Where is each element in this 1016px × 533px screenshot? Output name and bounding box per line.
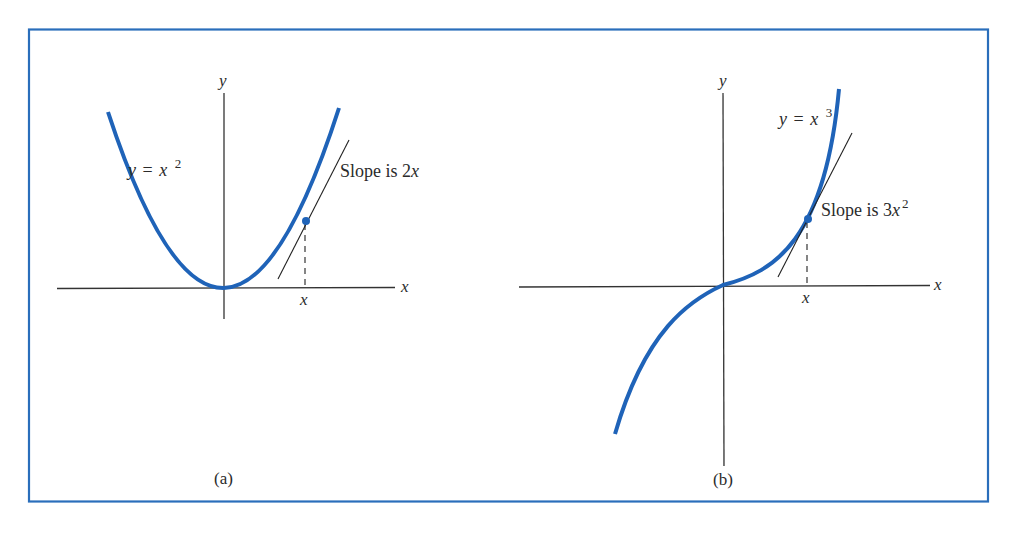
panel-a: y x x y = x 2 Slope is 2x (a)	[57, 71, 419, 488]
panel-b-y-axis	[723, 93, 724, 466]
panel-a-tangent-line	[278, 140, 349, 279]
figure-canvas: y x x y = x 2 Slope is 2x (a) y x x	[0, 0, 1016, 533]
panel-b-x-tick-label: x	[801, 288, 810, 307]
panel-b-y-axis-label: y	[717, 71, 727, 90]
panel-b-x-axis-label: x	[933, 275, 942, 294]
panel-b-cubic-curve	[615, 89, 839, 434]
panel-a-y-axis-label: y	[217, 71, 227, 90]
panel-a-caption-label: (a)	[214, 469, 233, 488]
panel-a-curve-label: y = x 2	[126, 156, 181, 180]
panel-b-tangent-point	[804, 215, 812, 223]
panel-a-x-axis-label: x	[400, 277, 409, 296]
panel-a-tangent-label: Slope is 2x	[340, 161, 419, 181]
panel-b-curve-label: y = x 3	[777, 105, 832, 129]
panel-b-tangent-label: Slope is 3x2	[821, 196, 909, 220]
figure-frame	[29, 30, 988, 502]
panel-b: y x x y = x 3 Slope is 3x2 (b)	[519, 71, 942, 489]
panel-a-x-tick-label: x	[299, 290, 308, 309]
panel-a-tangent-point	[302, 217, 310, 225]
panel-b-caption-label: (b)	[713, 470, 733, 489]
